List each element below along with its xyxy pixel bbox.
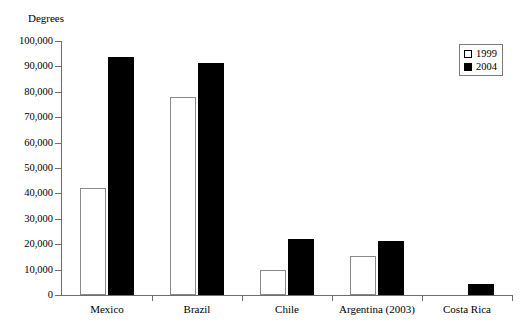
y-axis-tick-label: 0 (1, 290, 53, 301)
legend: 19992004 (459, 44, 503, 76)
y-axis-tick-label: 90,000 (1, 61, 53, 72)
y-axis-tick-label: 50,000 (1, 163, 53, 174)
y-axis-tick (55, 41, 61, 42)
y-axis-tick (55, 92, 61, 93)
bar-chart: Degrees 100,00090,00080,00070,00060,0005… (0, 0, 527, 328)
bar-group (62, 41, 152, 295)
bar-1999 (80, 188, 106, 295)
x-axis-tick (422, 296, 423, 301)
y-axis-tick (55, 193, 61, 194)
bar-group (242, 41, 332, 295)
y-axis-tick (55, 270, 61, 271)
legend-item-label: 1999 (476, 48, 497, 59)
bar-2004 (468, 284, 494, 295)
x-axis-category-label: Brazil (152, 302, 242, 316)
x-axis-tick (512, 296, 513, 301)
bar-group (152, 41, 242, 295)
y-axis-tick-label: 100,000 (1, 36, 53, 47)
bar-group (422, 41, 512, 295)
y-axis-tick (55, 244, 61, 245)
y-axis-tick-labels: 100,00090,00080,00070,00060,00050,00040,… (0, 0, 53, 328)
x-axis-category-label: Chile (242, 302, 332, 316)
x-axis-category-labels: MexicoBrazilChileArgentina (2003)Costa R… (62, 302, 512, 324)
y-axis-tick (55, 143, 61, 144)
legend-swatch-icon (464, 63, 472, 71)
y-axis-tick-label: 10,000 (1, 265, 53, 276)
y-axis-tick-label: 60,000 (1, 138, 53, 149)
bar-group (332, 41, 422, 295)
bar-2004 (288, 239, 314, 295)
bar-1999 (260, 270, 286, 295)
x-axis-line (61, 295, 513, 296)
legend-item-label: 2004 (476, 61, 497, 72)
x-axis-tick (242, 296, 243, 301)
x-axis-tick (332, 296, 333, 301)
y-axis-tick (55, 66, 61, 67)
x-axis-category-label: Costa Rica (422, 302, 512, 316)
x-axis-category-label: Argentina (2003) (332, 302, 422, 316)
bar-1999 (170, 97, 196, 295)
y-axis-tick (55, 168, 61, 169)
x-axis-tick (152, 296, 153, 301)
y-axis-tick (55, 117, 61, 118)
x-axis-category-label: Mexico (62, 302, 152, 316)
bar-1999 (350, 256, 376, 295)
y-axis-tick-label: 30,000 (1, 214, 53, 225)
y-axis-tick (55, 219, 61, 220)
legend-item: 2004 (464, 60, 497, 73)
legend-item: 1999 (464, 47, 497, 60)
bar-2004 (108, 57, 134, 295)
legend-swatch-icon (464, 50, 472, 58)
y-axis-tick-label: 80,000 (1, 87, 53, 98)
y-axis-tick-label: 70,000 (1, 112, 53, 123)
y-axis-tick-label: 40,000 (1, 188, 53, 199)
y-axis-tick-label: 20,000 (1, 239, 53, 250)
bar-2004 (378, 241, 404, 295)
bar-2004 (198, 63, 224, 295)
y-axis-tick (55, 295, 61, 296)
plot-area (62, 41, 512, 295)
